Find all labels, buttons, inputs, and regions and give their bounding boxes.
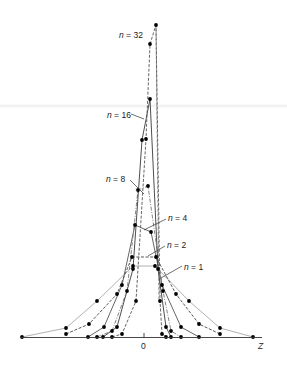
data-point xyxy=(64,326,68,330)
sampling-distribution-chart: 0 Z n = 32 n = 16 n = 8 n = 4 n = 2 n = … xyxy=(0,0,287,371)
data-point xyxy=(187,299,191,303)
data-point xyxy=(218,326,222,330)
data-point xyxy=(148,97,152,101)
data-point xyxy=(110,335,114,339)
z-axis-label: Z xyxy=(257,341,264,351)
data-point xyxy=(115,292,119,296)
data-point xyxy=(154,255,158,259)
data-point xyxy=(120,332,124,336)
data-point xyxy=(134,299,138,303)
data-point xyxy=(144,137,148,141)
data-point xyxy=(179,335,183,339)
data-point xyxy=(148,42,152,46)
data-point xyxy=(160,332,164,336)
data-point xyxy=(140,138,144,142)
data-point xyxy=(164,335,168,339)
data-point xyxy=(160,283,164,287)
data-point xyxy=(156,267,160,271)
data-point xyxy=(115,325,119,329)
data-point xyxy=(125,289,129,293)
points-group xyxy=(20,23,255,339)
leader-n4 xyxy=(144,219,166,230)
label-n1: n = 1 xyxy=(184,262,203,272)
data-point xyxy=(136,188,140,192)
data-point xyxy=(130,255,134,259)
data-point xyxy=(154,23,158,27)
data-point xyxy=(169,329,173,333)
data-point xyxy=(120,283,124,287)
data-point xyxy=(110,329,114,333)
leader-n16 xyxy=(131,114,144,119)
data-point xyxy=(158,299,162,303)
data-point xyxy=(101,335,105,339)
data-point xyxy=(153,264,157,268)
label-n4: n = 4 xyxy=(168,213,187,223)
curves-group xyxy=(22,25,253,337)
data-point xyxy=(64,332,68,336)
data-point xyxy=(164,325,168,329)
label-n32: n = 32 xyxy=(119,30,143,40)
data-point xyxy=(179,325,183,329)
data-point xyxy=(20,335,24,339)
data-point xyxy=(169,335,173,339)
data-point xyxy=(133,223,137,227)
label-n8: n = 8 xyxy=(106,174,125,184)
data-point xyxy=(95,335,99,339)
data-point xyxy=(174,292,178,296)
data-point xyxy=(197,335,201,339)
label-n16: n = 16 xyxy=(107,110,131,120)
data-point xyxy=(218,332,222,336)
leader-n1 xyxy=(161,266,182,278)
data-point xyxy=(102,325,106,329)
data-point xyxy=(146,184,150,188)
data-point xyxy=(251,335,255,339)
data-point xyxy=(86,335,90,339)
data-point xyxy=(197,322,201,326)
leader-n8 xyxy=(130,180,144,194)
data-point xyxy=(161,289,165,293)
label-n2: n = 2 xyxy=(167,240,186,250)
data-point xyxy=(95,299,99,303)
data-point xyxy=(149,230,153,234)
data-point xyxy=(131,267,135,271)
zero-tick-label: 0 xyxy=(141,341,146,351)
data-point xyxy=(87,322,91,326)
